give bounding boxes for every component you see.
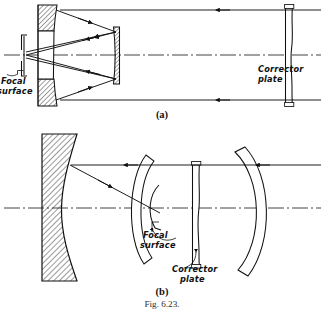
focal-surface-label-a-line2: surface [0,86,33,96]
optical-diagram-svg: Focal surface Corrector plate (a) [0,0,325,311]
focal-surface-label-b: Focal Focal surface [140,221,176,250]
outer-arc-b [235,147,266,276]
corrector-plate-label-b: Corrector plate [172,252,218,284]
corrector-plate-a [285,5,294,107]
corrector-plate-label-a-line1: Corrector [258,64,304,74]
focal-surface-label-b-text1: Focal [143,230,168,240]
figure-container: Focal surface Corrector plate (a) [0,0,325,311]
panel-b: Focal Focal surface Corrector plate (b) [4,134,321,298]
secondary-mirror-a [114,27,120,84]
focal-surface-label-a: Focal surface [0,71,33,97]
corrector-plate-label-b-line2: plate [179,274,205,284]
focal-surface-label-b-text2: surface [140,240,176,250]
corrector-plate-label-a-line2: plate [257,74,283,84]
figure-number: Fig. 6.23. [144,299,179,309]
panel-a: Focal surface Corrector plate (a) [0,5,321,122]
focal-surface-label-a-line1: Focal [1,76,26,86]
corrector-plate-label-a: Corrector plate [257,64,304,84]
primary-mirror-a [38,5,57,106]
corrector-plate-label-b-line1: Corrector [172,264,218,274]
primary-mirror-b [42,134,77,281]
panel-b-caption: (b) [156,286,169,298]
panel-a-caption: (a) [156,109,169,121]
